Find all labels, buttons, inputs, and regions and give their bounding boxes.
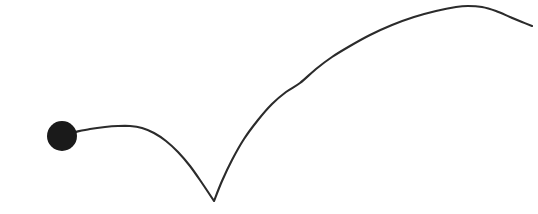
origin-marker-dot [47,121,77,151]
sketch-canvas [0,0,538,214]
trajectory-drawing [0,0,538,214]
